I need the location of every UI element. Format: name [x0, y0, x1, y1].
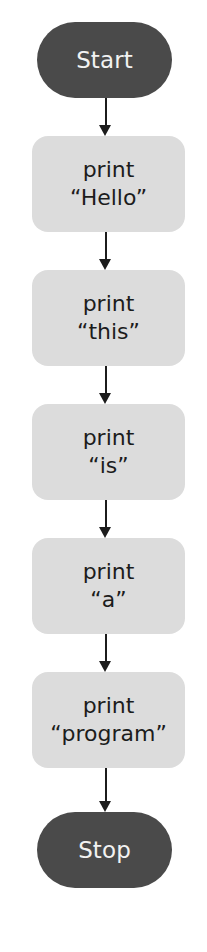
- connector-stem: [105, 366, 107, 394]
- arrowhead-icon: [99, 393, 111, 404]
- node-print-is-line2: “is”: [88, 452, 128, 480]
- connector-print-is-to-print-a: [99, 500, 112, 538]
- node-print-this-line1: print: [83, 290, 135, 318]
- connector-stem: [105, 768, 107, 802]
- node-print-hello-line1: print: [83, 156, 135, 184]
- arrowhead-icon: [99, 801, 111, 812]
- node-print-a[interactable]: print “a”: [32, 538, 185, 634]
- node-print-is-line1: print: [83, 424, 135, 452]
- connector-print-this-to-print-is: [99, 366, 112, 404]
- node-print-is[interactable]: print “is”: [32, 404, 185, 500]
- node-stop[interactable]: Stop: [37, 812, 172, 888]
- flowchart-canvas: Start print “Hello” print “this” print “…: [0, 0, 207, 952]
- connector-stem: [105, 98, 107, 126]
- connector-start-to-print-hello: [99, 98, 112, 136]
- connector-stem: [105, 634, 107, 662]
- arrowhead-icon: [99, 259, 111, 270]
- node-print-program-line2: “program”: [50, 720, 167, 748]
- node-print-hello-line2: “Hello”: [70, 184, 147, 212]
- arrowhead-icon: [99, 527, 111, 538]
- node-start[interactable]: Start: [37, 22, 172, 98]
- node-stop-label: Stop: [78, 839, 131, 862]
- connector-print-a-to-print-program: [99, 634, 112, 672]
- connector-print-program-to-stop: [99, 768, 112, 812]
- node-print-this[interactable]: print “this”: [32, 270, 185, 366]
- node-start-label: Start: [76, 49, 133, 72]
- connector-stem: [105, 232, 107, 260]
- node-print-program-line1: print: [83, 692, 135, 720]
- node-print-hello[interactable]: print “Hello”: [32, 136, 185, 232]
- node-print-a-line1: print: [83, 558, 135, 586]
- node-print-a-line2: “a”: [90, 586, 126, 614]
- arrowhead-icon: [99, 661, 111, 672]
- node-print-this-line2: “this”: [77, 318, 140, 346]
- node-print-program[interactable]: print “program”: [32, 672, 185, 768]
- arrowhead-icon: [99, 125, 111, 136]
- connector-stem: [105, 500, 107, 528]
- connector-print-hello-to-print-this: [99, 232, 112, 270]
